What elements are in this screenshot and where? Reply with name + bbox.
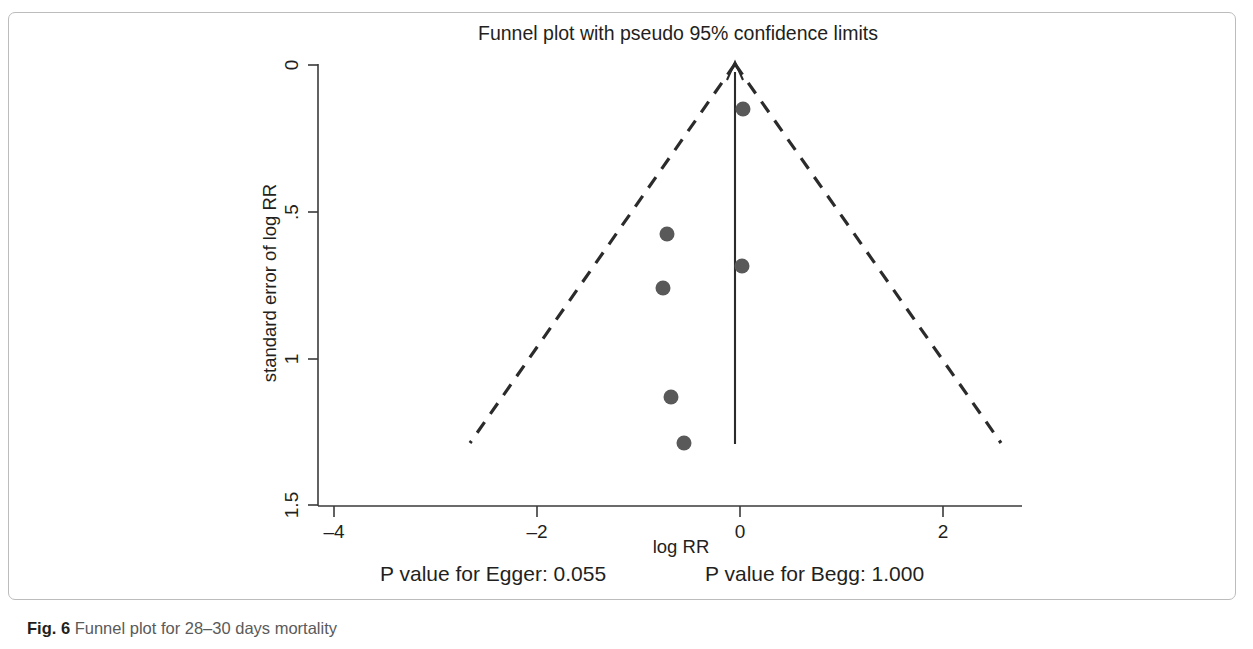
x-tick-label--4: –4 — [323, 521, 345, 542]
y-tick-label-0: 0 — [281, 60, 302, 71]
y-axis-ticks — [308, 65, 318, 505]
funnel-plot-svg: Funnel plot with pseudo 95% confidence l… — [0, 0, 1253, 600]
y-axis-label: standard error of log RR — [259, 184, 280, 382]
x-tick-label-0: 0 — [735, 521, 746, 542]
data-point — [664, 390, 679, 405]
funnel-plot-figure: Funnel plot with pseudo 95% confidence l… — [0, 0, 1253, 600]
data-point — [736, 102, 751, 117]
x-tick-label--2: –2 — [526, 521, 547, 542]
chart-title: Funnel plot with pseudo 95% confidence l… — [478, 22, 878, 44]
ci-limit-left-line — [470, 64, 735, 443]
x-axis-label: log RR — [653, 536, 710, 557]
x-axis-ticks — [334, 506, 943, 517]
figure-caption: Fig. 6 Funnel plot for 28–30 days mortal… — [27, 619, 337, 638]
figure-caption-label: Fig. 6 — [27, 619, 70, 637]
figure-caption-text: Funnel plot for 28–30 days mortality — [75, 619, 337, 637]
y-tick-label-1.5: 1.5 — [281, 492, 302, 518]
data-point — [660, 227, 675, 242]
ci-limit-right-line — [735, 64, 1001, 443]
y-tick-label-1: 1 — [281, 354, 302, 365]
data-point — [735, 259, 750, 274]
data-point — [677, 436, 692, 451]
data-points-group — [656, 102, 751, 451]
y-tick-label-0.5: .5 — [281, 204, 302, 220]
p-value-begg: P value for Begg: 1.000 — [705, 562, 924, 586]
x-tick-label-2: 2 — [938, 521, 949, 542]
data-point — [656, 281, 671, 296]
p-value-egger: P value for Egger: 0.055 — [380, 562, 606, 586]
